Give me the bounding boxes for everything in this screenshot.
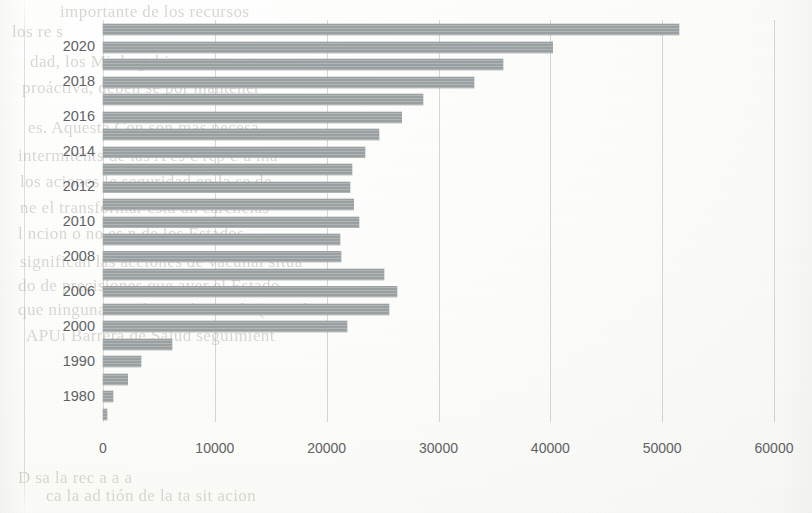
gridline [662, 20, 663, 422]
bar [103, 269, 384, 280]
bar [103, 251, 341, 262]
bar [103, 391, 113, 402]
x-axis-tick-label: 60000 [755, 440, 794, 456]
x-axis-tick-label: 10000 [195, 440, 234, 456]
y-axis-tick-label: 2016 [20, 110, 95, 122]
bar [103, 374, 128, 385]
bar [103, 77, 474, 88]
y-axis-tick-label: 2008 [20, 250, 95, 262]
bar [103, 182, 350, 193]
bar [103, 356, 141, 367]
y-axis-tick-label: 1990 [20, 355, 95, 367]
y-axis-tick-label: 2018 [20, 75, 95, 87]
bar [103, 339, 172, 350]
y-axis-tick-label: 2014 [20, 145, 95, 157]
bar [103, 147, 365, 158]
bar [103, 129, 379, 140]
gridline [550, 20, 551, 422]
y-axis-tick-label: 2010 [20, 215, 95, 227]
x-axis-tick-label: 0 [99, 440, 107, 456]
bar [103, 304, 389, 315]
bar [103, 217, 359, 228]
x-axis-tick-label: 30000 [419, 440, 458, 456]
x-axis-tick-labels: 0100002000030000400005000060000 [0, 432, 812, 462]
bar [103, 94, 423, 105]
bar [103, 59, 503, 70]
bar [103, 321, 347, 332]
bar [103, 112, 402, 123]
bar [103, 24, 679, 35]
x-axis-tick-label: 40000 [531, 440, 570, 456]
y-axis-tick-label: 2020 [20, 40, 95, 52]
x-axis-tick-label: 20000 [307, 440, 346, 456]
bar [103, 286, 397, 297]
y-axis-tick-label: 1980 [20, 390, 95, 402]
bar [103, 42, 553, 53]
y-axis-tick-label: 2006 [20, 285, 95, 297]
bar [103, 234, 340, 245]
bar [103, 164, 352, 175]
bar [103, 409, 107, 420]
x-axis-tick-label: 50000 [643, 440, 682, 456]
y-axis-tick-label: 2012 [20, 180, 95, 192]
y-axis-tick-labels: 2020201820162014201220102008200620001990… [20, 20, 95, 422]
bar-chart: 2020201820162014201220102008200620001990… [0, 0, 812, 513]
plot-area [103, 20, 774, 422]
gridline [774, 20, 775, 422]
y-axis-tick-label: 2000 [20, 320, 95, 332]
bar [103, 199, 354, 210]
